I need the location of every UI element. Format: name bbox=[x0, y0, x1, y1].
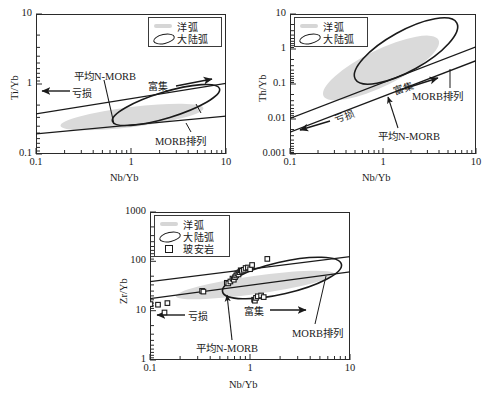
band-swatch-icon bbox=[158, 218, 180, 230]
x-tick-b-1: 1 bbox=[365, 157, 401, 168]
panel-a: 10 1 0.1 0.1 1 10 Ti/Yb Nb/Yb 洋弧 大陆弧 平均N… bbox=[0, 0, 248, 200]
annotation-morb-array-a: MORB排列 bbox=[155, 133, 206, 148]
y-tick-b-10: 10 bbox=[252, 8, 286, 19]
x-tick-b-10: 10 bbox=[458, 157, 494, 168]
legend-label: 玻安岩 bbox=[183, 241, 215, 256]
x-axis-title-a: Nb/Yb bbox=[110, 172, 139, 183]
x-tick-a-0.1: 0.1 bbox=[18, 157, 54, 168]
annotation-morb-array-b: MORB排列 bbox=[412, 88, 463, 103]
figure-caption-partial bbox=[24, 396, 27, 406]
y-tick-c-10: 10 bbox=[110, 305, 146, 316]
legend-item-boninite-c: 玻安岩 bbox=[158, 242, 225, 254]
annotation-enriched-c: 富集 bbox=[244, 303, 264, 318]
y-tick-c-100: 100 bbox=[110, 255, 146, 266]
legend-c: 洋弧 大陆弧 玻安岩 bbox=[154, 215, 230, 257]
x-axis-ticks-a bbox=[36, 148, 226, 154]
x-tick-c-1: 1 bbox=[232, 363, 268, 374]
y-axis-title-c: Zr/Yb bbox=[118, 278, 129, 304]
panel-b: 10 1 0.1 0.01 0.001 0.1 1 10 Th/Yb Nb/Yb… bbox=[248, 0, 495, 200]
x-tick-c-10: 10 bbox=[332, 363, 368, 374]
morb-array-leader-a2 bbox=[186, 123, 191, 132]
x-tick-b-0.1: 0.1 bbox=[272, 157, 308, 168]
y-axis-title-a: Ti/Yb bbox=[9, 75, 20, 100]
legend-item-continental-arc-a: 大陆弧 bbox=[152, 32, 217, 44]
x-tick-a-10: 10 bbox=[208, 157, 244, 168]
y-axis-title-b: Th/Yb bbox=[257, 75, 268, 102]
ellipse-swatch-icon bbox=[158, 230, 180, 242]
square-swatch-icon bbox=[158, 242, 180, 254]
legend-item-continental-arc-b: 大陆弧 bbox=[298, 32, 363, 44]
band-swatch-icon bbox=[298, 20, 320, 32]
y-tick-b-1: 1 bbox=[252, 43, 286, 54]
x-tick-c-0.1: 0.1 bbox=[132, 363, 168, 374]
x-axis-ticks-b bbox=[290, 148, 476, 154]
avg-nmorb-pointer-c bbox=[227, 295, 232, 340]
y-tick-b-0.01: 0.01 bbox=[252, 113, 286, 124]
panel-c: 1000 100 10 1 0.1 1 10 Zr/Yb Nb/Yb 洋弧 大陆… bbox=[110, 198, 400, 403]
annotation-avg-nmorb-b: 平均N-MORB bbox=[378, 128, 440, 143]
band-swatch-icon bbox=[152, 20, 174, 32]
annotation-avg-nmorb-c: 平均N-MORB bbox=[196, 340, 258, 355]
annotation-depleted-c: 亏损 bbox=[188, 308, 208, 323]
x-tick-a-1: 1 bbox=[113, 157, 149, 168]
avg-nmorb-pointer-b bbox=[388, 97, 398, 128]
y-tick-c-1000: 1000 bbox=[110, 206, 146, 217]
x-axis-title-c: Nb/Yb bbox=[229, 379, 258, 390]
ellipse-swatch-icon bbox=[298, 32, 320, 44]
legend-label: 大陆弧 bbox=[323, 31, 355, 46]
legend-b: 洋弧 大陆弧 bbox=[294, 17, 368, 47]
annotation-enriched-a: 富集 bbox=[148, 78, 168, 93]
x-axis-title-b: Nb/Yb bbox=[362, 172, 391, 183]
annotation-avg-nmorb-a: 平均N-MORB bbox=[74, 68, 136, 83]
y-tick-a-10: 10 bbox=[4, 8, 32, 19]
ellipse-swatch-icon bbox=[152, 32, 174, 44]
legend-label: 大陆弧 bbox=[177, 31, 209, 46]
annotation-depleted-a: 亏损 bbox=[72, 85, 92, 100]
annotation-morb-array-c: MORB排列 bbox=[292, 325, 343, 340]
legend-a: 洋弧 大陆弧 bbox=[148, 17, 222, 47]
